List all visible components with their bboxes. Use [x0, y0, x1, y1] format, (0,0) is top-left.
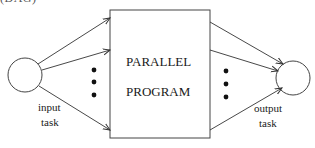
- input-label-line2: task: [41, 116, 59, 128]
- parallel-program-diagram: PARALLEL PROGRAM input task output task: [0, 0, 315, 148]
- output-ellipsis-icon: [224, 69, 229, 100]
- output-arrow-1: [210, 22, 283, 64]
- output-arrow-2: [210, 50, 278, 71]
- box-label-line2: PROGRAM: [126, 84, 191, 99]
- input-arrow-2: [42, 50, 110, 70]
- box-label-line1: PARALLEL: [126, 54, 191, 69]
- input-arrows: [38, 18, 110, 130]
- output-label-line2: task: [259, 117, 277, 129]
- input-ellipsis-icon: [92, 68, 97, 98]
- output-task-node: [276, 61, 310, 95]
- input-label-line1: input: [38, 101, 61, 113]
- output-label-line1: output: [254, 102, 282, 114]
- input-arrow-1: [38, 18, 110, 64]
- parallel-program-box: [110, 10, 210, 138]
- input-task-node: [8, 58, 42, 92]
